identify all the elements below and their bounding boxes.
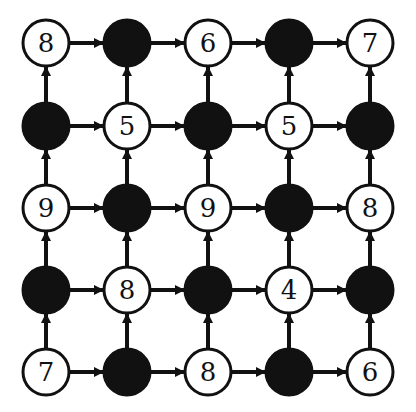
numbered-node: 7 (347, 20, 393, 66)
filled-node (266, 20, 312, 66)
node-value: 9 (200, 193, 217, 223)
numbered-node: 5 (104, 103, 150, 149)
node-value: 8 (38, 28, 55, 58)
filled-node (23, 103, 69, 149)
node-value: 6 (200, 28, 217, 58)
node-circle (104, 20, 150, 66)
filled-node (104, 349, 150, 395)
filled-node (347, 267, 393, 313)
node-circle (266, 20, 312, 66)
node-circle (266, 185, 312, 231)
grid-graph: 8675599884786 (0, 0, 416, 412)
node-circle (347, 267, 393, 313)
numbered-node: 8 (104, 267, 150, 313)
node-circle (185, 103, 231, 149)
filled-node (23, 267, 69, 313)
filled-node (347, 103, 393, 149)
numbered-node: 8 (347, 185, 393, 231)
node-circle (347, 103, 393, 149)
numbered-node: 8 (185, 349, 231, 395)
filled-node (104, 185, 150, 231)
filled-node (266, 349, 312, 395)
node-circle (104, 349, 150, 395)
numbered-node: 6 (347, 349, 393, 395)
node-value: 7 (38, 357, 55, 387)
node-circle (266, 349, 312, 395)
node-circle (23, 267, 69, 313)
node-value: 6 (362, 357, 379, 387)
numbered-node: 7 (23, 349, 69, 395)
filled-node (266, 185, 312, 231)
numbered-node: 5 (266, 103, 312, 149)
node-value: 8 (200, 357, 217, 387)
numbered-node: 9 (185, 185, 231, 231)
node-value: 5 (119, 111, 136, 141)
node-value: 7 (362, 28, 379, 58)
node-value: 8 (119, 275, 136, 305)
filled-node (185, 267, 231, 313)
numbered-node: 6 (185, 20, 231, 66)
node-value: 4 (281, 275, 298, 305)
node-circle (185, 267, 231, 313)
numbered-node: 4 (266, 267, 312, 313)
node-value: 9 (38, 193, 55, 223)
node-circle (23, 103, 69, 149)
node-value: 8 (362, 193, 379, 223)
numbered-node: 8 (23, 20, 69, 66)
numbered-node: 9 (23, 185, 69, 231)
node-circle (104, 185, 150, 231)
node-value: 5 (281, 111, 298, 141)
filled-node (185, 103, 231, 149)
filled-node (104, 20, 150, 66)
